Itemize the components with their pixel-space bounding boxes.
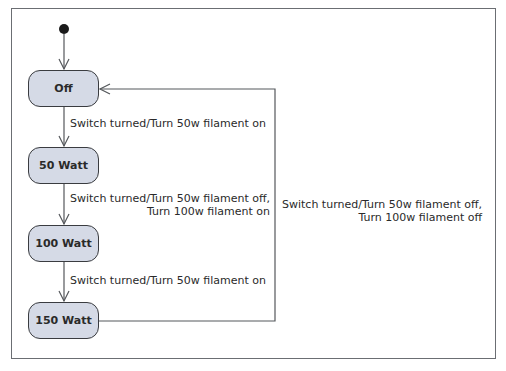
state-diagram: Off 50 Watt 100 Watt 150 Watt Switch tur… (0, 0, 506, 371)
transition-label-off-50: Switch turned/Turn 50w filament on (70, 117, 266, 130)
transition-label-50-100: Switch turned/Turn 50w filament off, Tur… (70, 192, 270, 218)
state-label: 150 Watt (35, 314, 91, 327)
label-line: Turn 100w filament on (70, 205, 270, 218)
label-line: Switch turned/Turn 50w filament on (70, 117, 266, 130)
initial-node-icon (59, 24, 69, 34)
label-line: Switch turned/Turn 50w filament on (70, 274, 266, 287)
state-150-watt: 150 Watt (28, 302, 99, 339)
label-line: Switch turned/Turn 50w filament off, (282, 198, 482, 211)
label-line: Switch turned/Turn 50w filament off, (70, 192, 270, 205)
label-line: Turn 100w filament off (282, 211, 482, 224)
state-label: 100 Watt (35, 237, 91, 250)
state-50-watt: 50 Watt (28, 147, 99, 184)
state-100-watt: 100 Watt (28, 225, 99, 262)
state-label: Off (54, 82, 72, 95)
state-off: Off (28, 70, 99, 107)
transition-label-100-150: Switch turned/Turn 50w filament on (70, 274, 266, 287)
state-label: 50 Watt (39, 159, 88, 172)
transition-label-150-off: Switch turned/Turn 50w filament off, Tur… (282, 198, 482, 224)
